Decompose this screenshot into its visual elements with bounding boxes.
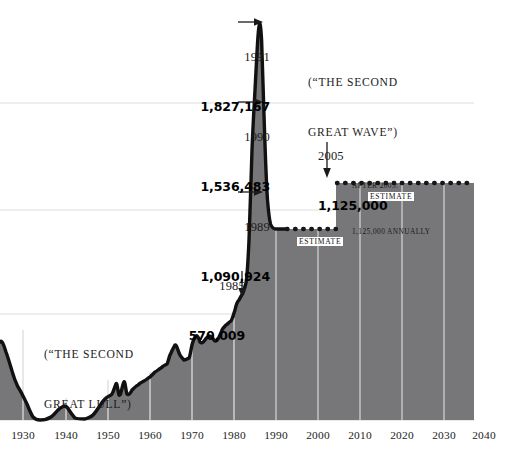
annotation-second-great-lull-line2: GREAT LULL”) (44, 398, 134, 413)
annotation-point-1985-year: 1985 (150, 279, 245, 293)
annotation-second-great-lull-line1: (“THE SECOND (44, 348, 134, 363)
annotation-estimate-early: ESTIMATE (281, 212, 343, 266)
x-axis-label-2020: 2020 (379, 429, 425, 441)
annotation-estimate-late-label: ESTIMATE (368, 192, 414, 201)
annotation-after-2005-line2: 1,125,000 ANNUALLY (352, 227, 431, 237)
x-axis-label-1960: 1960 (127, 429, 173, 441)
x-axis-label-2010: 2010 (337, 429, 383, 441)
x-axis-label-1940: 1940 (43, 429, 89, 441)
annotation-point-1985: 1985 570,009 (150, 243, 245, 378)
annotation-estimate-late: ESTIMATE (352, 167, 414, 221)
x-axis-label-1970: 1970 (169, 429, 215, 441)
x-axis-label-1930: 1930 (0, 429, 46, 441)
annotation-level-1990-year: 1990 (150, 130, 270, 144)
x-axis-label-2040: 2040 (461, 429, 507, 441)
x-axis-label-1990: 1990 (253, 429, 299, 441)
x-axis-label-2000: 2000 (295, 429, 341, 441)
x-axis-label-1980: 1980 (211, 429, 257, 441)
annotation-point-1985-value: 570,009 (150, 329, 245, 343)
annotation-second-great-wave-line1: (“THE SECOND (308, 76, 398, 91)
annotation-peak-1991-year: 1991 (150, 50, 270, 64)
x-axis-label-1950: 1950 (85, 429, 131, 441)
annotation-second-great-wave-line2: GREAT WAVE”) (308, 126, 398, 141)
annotation-level-1989-year: 1989 (145, 220, 270, 234)
annotation-estimate-early-label: ESTIMATE (297, 237, 343, 246)
immigration-area-chart: 1991 1,827,167 1990 1,536,483 1989 1,090… (0, 0, 510, 461)
